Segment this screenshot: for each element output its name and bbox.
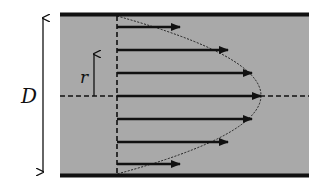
radius-label: r [80, 67, 89, 87]
pipe-flow-diagram: r D [0, 0, 333, 183]
diameter-label: D [20, 84, 37, 108]
